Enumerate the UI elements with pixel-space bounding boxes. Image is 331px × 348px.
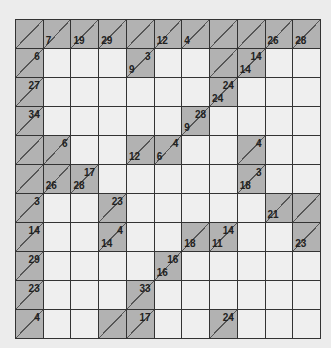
clue-cell: 29: [99, 20, 126, 48]
entry-cell[interactable]: [182, 49, 209, 77]
clue-cell: 23: [293, 223, 320, 251]
entry-cell[interactable]: [99, 49, 126, 77]
entry-cell[interactable]: [182, 310, 209, 338]
entry-cell[interactable]: [266, 136, 293, 164]
entry-cell[interactable]: [127, 107, 154, 135]
across-clue: 17: [84, 168, 95, 178]
entry-cell[interactable]: [266, 310, 293, 338]
down-clue: 6: [157, 152, 163, 162]
entry-cell[interactable]: [99, 78, 126, 106]
across-clue: 24: [223, 313, 234, 323]
entry-cell[interactable]: [99, 136, 126, 164]
entry-cell[interactable]: [44, 281, 71, 309]
clue-cell: 4: [16, 310, 43, 338]
across-clue: 23: [29, 284, 40, 294]
entry-cell[interactable]: [127, 252, 154, 280]
entry-cell[interactable]: [293, 49, 320, 77]
entry-cell[interactable]: [71, 252, 98, 280]
across-clue: 24: [223, 81, 234, 91]
entry-cell[interactable]: [293, 78, 320, 106]
entry-cell[interactable]: [182, 252, 209, 280]
entry-cell[interactable]: [44, 78, 71, 106]
entry-cell[interactable]: [293, 252, 320, 280]
down-clue: 12: [157, 36, 168, 46]
entry-cell[interactable]: [155, 165, 182, 193]
entry-cell[interactable]: [99, 165, 126, 193]
clue-cell: 1411: [210, 223, 237, 251]
entry-cell[interactable]: [266, 223, 293, 251]
kakuro-grid: 7192912426286391414272424342896124642617…: [15, 19, 321, 339]
entry-cell[interactable]: [238, 194, 265, 222]
entry-cell[interactable]: [99, 107, 126, 135]
entry-cell[interactable]: [210, 252, 237, 280]
entry-cell[interactable]: [99, 252, 126, 280]
entry-cell[interactable]: [155, 49, 182, 77]
entry-cell[interactable]: [293, 310, 320, 338]
entry-cell[interactable]: [71, 223, 98, 251]
entry-cell[interactable]: [155, 78, 182, 106]
clue-cell: 1414: [238, 49, 265, 77]
down-clue: 14: [101, 239, 112, 249]
entry-cell[interactable]: [210, 194, 237, 222]
entry-cell[interactable]: [127, 78, 154, 106]
entry-cell[interactable]: [127, 223, 154, 251]
entry-cell[interactable]: [71, 194, 98, 222]
clue-cell: 23: [99, 194, 126, 222]
entry-cell[interactable]: [44, 252, 71, 280]
entry-cell[interactable]: [44, 310, 71, 338]
entry-cell[interactable]: [238, 107, 265, 135]
entry-cell[interactable]: [71, 281, 98, 309]
entry-cell[interactable]: [293, 136, 320, 164]
entry-cell[interactable]: [238, 223, 265, 251]
entry-cell[interactable]: [210, 281, 237, 309]
entry-cell[interactable]: [266, 78, 293, 106]
entry-cell[interactable]: [155, 281, 182, 309]
down-clue: 4: [184, 36, 190, 46]
entry-cell[interactable]: [210, 165, 237, 193]
entry-cell[interactable]: [182, 194, 209, 222]
entry-cell[interactable]: [127, 165, 154, 193]
entry-cell[interactable]: [238, 281, 265, 309]
entry-cell[interactable]: [293, 107, 320, 135]
entry-cell[interactable]: [71, 107, 98, 135]
down-clue: 26: [268, 36, 279, 46]
entry-cell[interactable]: [44, 107, 71, 135]
entry-cell[interactable]: [44, 223, 71, 251]
entry-cell[interactable]: [182, 136, 209, 164]
entry-cell[interactable]: [155, 223, 182, 251]
entry-cell[interactable]: [182, 281, 209, 309]
entry-cell[interactable]: [127, 194, 154, 222]
entry-cell[interactable]: [238, 252, 265, 280]
entry-cell[interactable]: [99, 281, 126, 309]
entry-cell[interactable]: [71, 136, 98, 164]
entry-cell[interactable]: [293, 165, 320, 193]
entry-cell[interactable]: [182, 78, 209, 106]
entry-cell[interactable]: [71, 78, 98, 106]
entry-cell[interactable]: [155, 107, 182, 135]
clue-cell: 21: [266, 194, 293, 222]
entry-cell[interactable]: [44, 49, 71, 77]
entry-cell[interactable]: [210, 107, 237, 135]
entry-cell[interactable]: [266, 49, 293, 77]
entry-cell[interactable]: [182, 165, 209, 193]
entry-cell[interactable]: [238, 310, 265, 338]
down-clue: 19: [73, 36, 84, 46]
entry-cell[interactable]: [266, 165, 293, 193]
entry-cell[interactable]: [238, 78, 265, 106]
entry-cell[interactable]: [266, 252, 293, 280]
entry-cell[interactable]: [44, 194, 71, 222]
entry-cell[interactable]: [71, 310, 98, 338]
entry-cell[interactable]: [155, 194, 182, 222]
entry-cell[interactable]: [210, 136, 237, 164]
entry-cell[interactable]: [293, 281, 320, 309]
across-clue: 14: [29, 226, 40, 236]
entry-cell[interactable]: [266, 107, 293, 135]
clue-cell: 3: [16, 194, 43, 222]
entry-cell[interactable]: [155, 310, 182, 338]
entry-cell[interactable]: [266, 281, 293, 309]
clue-cell: 19: [71, 20, 98, 48]
across-clue: 23: [112, 197, 123, 207]
entry-cell[interactable]: [71, 49, 98, 77]
clue-cell: [238, 20, 265, 48]
clue-cell: 17: [127, 310, 154, 338]
